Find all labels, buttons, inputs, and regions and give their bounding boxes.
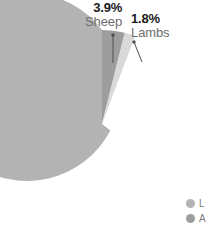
leader-line-lambs bbox=[134, 42, 142, 62]
legend-swatch-icon bbox=[186, 199, 195, 208]
pie-chart-figure: 3.9% Sheep 1.8% Lambs L A bbox=[0, 0, 213, 234]
legend-item-label: A bbox=[199, 213, 206, 224]
callout-lambs: 1.8% Lambs bbox=[131, 12, 170, 39]
legend-item-label: L bbox=[199, 198, 205, 209]
callout-lambs-percent: 1.8% bbox=[131, 12, 170, 26]
leader-dot-sheep bbox=[111, 33, 114, 36]
callout-sheep: 3.9% Sheep bbox=[85, 1, 122, 28]
legend-item[interactable]: A bbox=[186, 211, 213, 225]
legend-swatch-icon bbox=[186, 214, 195, 223]
leader-dot-lambs bbox=[132, 40, 135, 43]
callout-lambs-label: Lambs bbox=[131, 26, 170, 40]
callout-sheep-label: Sheep bbox=[85, 15, 122, 29]
legend-item[interactable]: L bbox=[186, 196, 213, 210]
pie-chart-graphic bbox=[0, 0, 213, 234]
callout-sheep-percent: 3.9% bbox=[85, 1, 122, 15]
chart-legend: L A bbox=[186, 196, 213, 226]
